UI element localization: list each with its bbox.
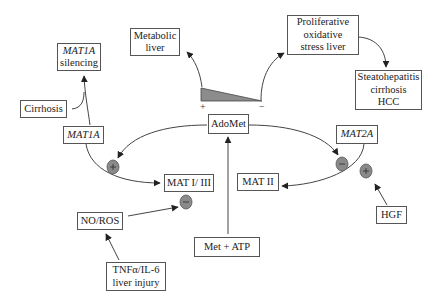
arrow-adomet-to-mat1a-regulator <box>118 125 207 158</box>
node-adomet: AdoMet <box>208 114 249 134</box>
gradient-minus-label: − <box>259 102 265 112</box>
node-hgf: HGF <box>376 206 407 224</box>
arrow-tnf-to-noros <box>106 234 119 260</box>
arrow-cirrhosis-to-silencing <box>72 92 84 109</box>
node-label: Cirrhosis <box>24 103 63 116</box>
node-label: stress liver <box>300 41 345 54</box>
node-label: TNFα/IL-6 <box>113 264 160 277</box>
node-metabolic-liver: Metabolic liver <box>130 28 180 56</box>
arrow-mat2a-to-mat2 <box>282 144 364 186</box>
arrow-mat1a-to-silencing <box>84 76 90 125</box>
arrow-noros-to-regulator <box>128 207 178 216</box>
arrow-gradient-to-metabolic-liver <box>187 52 202 87</box>
node-label: oxidative <box>303 29 342 42</box>
node-tnf-il6-liver-injury: TNFα/IL-6 liver injury <box>106 262 166 291</box>
node-label: HGF <box>381 209 402 222</box>
adomet-gradient-wedge <box>201 88 262 101</box>
gradient-plus-label: + <box>200 102 206 112</box>
node-label: NO/ROS <box>81 215 120 228</box>
node-mat2a: MAT2A <box>336 125 378 144</box>
node-label: MAT I/ III <box>167 177 211 190</box>
arrow-hgf-to-regulator <box>375 184 387 205</box>
node-label: silencing <box>60 57 98 70</box>
node-met-atp: Met + ATP <box>194 237 260 257</box>
node-label: liver injury <box>113 277 160 290</box>
node-label: MAT1A <box>67 129 99 142</box>
node-label: Metabolic <box>134 30 177 43</box>
node-label: liver <box>145 42 164 55</box>
node-mat-i-iii: MAT I/ III <box>164 174 214 192</box>
node-label: MAT1A <box>63 45 95 58</box>
node-proliferative-oxidative-stress-liver: Proliferative oxidative stress liver <box>287 15 359 55</box>
arrow-adomet-to-mat2a-regulator <box>249 125 338 155</box>
node-label: MAT2A <box>341 128 373 141</box>
node-no-ros: NO/ROS <box>77 212 123 230</box>
node-label: cirrhosis <box>370 84 406 97</box>
node-label: Steatohepatitis <box>358 71 420 84</box>
node-cirrhosis: Cirrhosis <box>20 100 67 118</box>
node-mat-ii: MAT II <box>237 173 279 191</box>
arrow-gradient-to-proliferative <box>261 53 284 100</box>
node-label: Met + ATP <box>204 241 250 254</box>
adomet-pathway-diagram: + − Metabolic liver MAT1A silencing Cirr… <box>0 0 441 302</box>
node-label: MAT II <box>242 176 274 189</box>
node-steatohepatitis-cirrhosis-hcc: Steatohepatitis cirrhosis HCC <box>355 70 422 110</box>
node-label: Proliferative <box>297 16 349 29</box>
node-label: HCC <box>378 96 400 109</box>
node-mat1a: MAT1A <box>63 126 104 144</box>
node-label: AdoMet <box>211 118 246 131</box>
arrow-proliferative-to-steatohepatitis <box>358 37 386 67</box>
node-mat1a-silencing: MAT1A silencing <box>57 43 101 71</box>
